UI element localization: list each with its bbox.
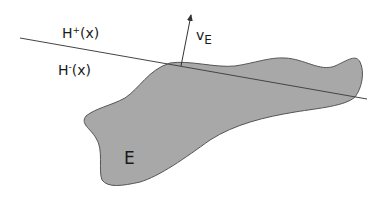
lower-halfspace-label: H-(x) bbox=[58, 62, 91, 78]
supporting-hyperplane-diagram: H+(x) H-(x) vE E bbox=[0, 0, 381, 197]
region-e-label: E bbox=[124, 148, 135, 168]
normal-vector-label: vE bbox=[196, 27, 212, 47]
normal-vector-arrow bbox=[181, 15, 191, 66]
upper-halfspace-label: H+(x) bbox=[62, 25, 99, 41]
